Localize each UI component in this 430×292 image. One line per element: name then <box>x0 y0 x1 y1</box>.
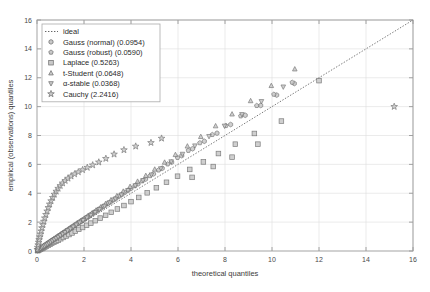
marker-square <box>216 151 221 156</box>
marker-square <box>154 185 159 190</box>
x-tick-label: 0 <box>35 256 39 263</box>
y-tick-label: 12 <box>24 74 32 81</box>
legend: idealGauss (normal) (0.0954)Gauss (robus… <box>42 24 160 102</box>
x-tick-label: 16 <box>409 256 417 263</box>
legend-entry-label: t-Student (0.0648) <box>63 69 124 78</box>
qq-plot-figure: 02468101214160246810121416theoretical qu… <box>0 0 430 292</box>
marker-square <box>136 195 141 200</box>
legend-entry[interactable]: Gauss (robust) (0.0590) <box>49 48 143 57</box>
marker-hexagon <box>259 103 263 108</box>
y-tick-label: 0 <box>28 248 32 255</box>
y-tick-label: 16 <box>24 17 32 24</box>
y-axis-title: empirical (observations) quantiles <box>6 79 15 191</box>
marker-hexagon <box>229 122 233 127</box>
marker-square <box>129 199 134 204</box>
legend-entry[interactable]: Gauss (normal) (0.0954) <box>49 38 145 47</box>
y-tick-label: 10 <box>24 103 32 110</box>
x-tick-label: 4 <box>129 256 133 263</box>
marker-square <box>93 218 98 223</box>
y-tick-label: 8 <box>28 132 32 139</box>
marker-square <box>49 60 54 65</box>
x-tick-label: 12 <box>315 256 323 263</box>
marker-square <box>187 167 192 172</box>
marker-square <box>317 78 322 83</box>
legend-entry-label: Cauchy (2.2416) <box>63 90 119 99</box>
marker-square <box>190 175 195 180</box>
legend-entry-label: α-stable (0.0368) <box>63 79 120 88</box>
marker-square <box>98 216 103 221</box>
marker-hexagon <box>202 139 206 144</box>
marker-square <box>211 164 216 169</box>
marker-square <box>233 142 238 147</box>
marker-square <box>89 221 94 226</box>
x-tick-label: 6 <box>176 256 180 263</box>
marker-square <box>175 174 180 179</box>
x-axis-title: theoretical quantiles <box>192 269 259 278</box>
legend-entry-label: Laplace (0.5263) <box>63 58 120 67</box>
y-tick-label: 6 <box>28 161 32 168</box>
legend-entry-label: Gauss (robust) (0.0590) <box>63 48 143 57</box>
marker-square <box>230 155 235 160</box>
marker-square <box>115 207 120 212</box>
marker-square <box>252 131 257 136</box>
legend-entry-label: ideal <box>63 27 79 36</box>
marker-square <box>256 142 261 147</box>
y-tick-label: 4 <box>28 190 32 197</box>
marker-square <box>201 160 206 165</box>
marker-hexagon <box>215 131 219 136</box>
chart-root: 02468101214160246810121416theoretical qu… <box>0 0 430 292</box>
x-tick-label: 14 <box>362 256 370 263</box>
marker-square <box>109 210 114 215</box>
marker-square <box>103 213 108 218</box>
x-tick-label: 2 <box>82 256 86 263</box>
legend-entry-label: Gauss (normal) (0.0954) <box>63 38 145 47</box>
marker-square <box>164 180 169 185</box>
marker-hexagon <box>49 40 53 45</box>
x-tick-label: 10 <box>268 256 276 263</box>
marker-square <box>145 191 150 196</box>
x-tick-label: 8 <box>223 256 227 263</box>
marker-square <box>122 203 127 208</box>
y-tick-label: 2 <box>28 219 32 226</box>
marker-square <box>279 119 284 124</box>
y-tick-label: 14 <box>24 45 32 52</box>
